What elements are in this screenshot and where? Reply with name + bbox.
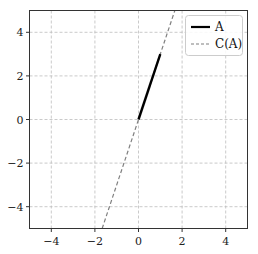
- chart: −4−2024−4−2024 A C(A): [0, 0, 258, 254]
- y-tick-label: −4: [7, 201, 23, 214]
- y-tick-label: 4: [17, 26, 24, 39]
- x-tick-label: −4: [43, 235, 59, 248]
- x-tick-label: −2: [87, 235, 103, 248]
- x-tick-label: 2: [179, 235, 186, 248]
- legend: A C(A): [186, 16, 243, 56]
- x-tick-label: 4: [222, 235, 229, 248]
- legend-label-a: A: [214, 20, 224, 34]
- axis-ticks: −4−2024−4−2024: [7, 26, 229, 247]
- series-line-a: [139, 54, 161, 119]
- y-tick-label: 2: [17, 70, 24, 83]
- x-tick-label: 0: [135, 235, 142, 248]
- y-tick-label: −2: [7, 157, 23, 170]
- legend-label-c: C(A): [215, 37, 242, 51]
- y-tick-label: 0: [17, 114, 24, 127]
